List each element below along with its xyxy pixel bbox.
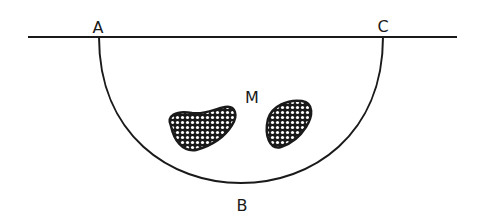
right-inclusion [267,101,311,148]
label-m: M [245,88,259,107]
arc-abc [99,37,383,183]
label-a: A [93,18,104,37]
label-b: B [237,196,248,215]
diagram-figure: A C M B [0,0,478,217]
left-inclusion [170,107,236,150]
label-c: C [377,17,388,36]
